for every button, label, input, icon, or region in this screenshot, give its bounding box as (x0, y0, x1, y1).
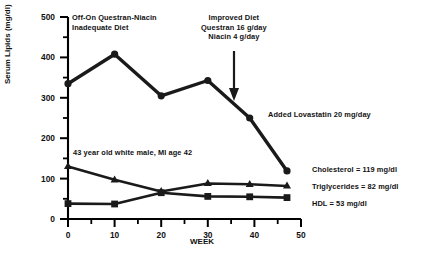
x-tick-20: 20 (149, 230, 173, 240)
y-tick-0: 0 (22, 214, 55, 224)
y-tick-400: 400 (22, 52, 55, 62)
y-tick-300: 300 (22, 93, 55, 103)
annotation-questran-line1: Off-On Questran-Niacin (72, 13, 157, 22)
x-tick-0: 0 (56, 230, 80, 240)
annotation-lovastatin: Added Lovastatin 20 mg/day (268, 110, 371, 120)
y-tick-500: 500 (22, 12, 55, 22)
label-cholesterol-value: Cholesterol = 119 mg/dl (312, 165, 397, 175)
annotation-improved-line1: Improved Diet (209, 13, 260, 22)
label-hdl-value: HDL = 53 mg/dl (312, 199, 367, 209)
x-tick-40: 40 (242, 230, 266, 240)
y-axis-title: Serum Lipids (mg/dl) (3, 4, 12, 84)
annotation-improved-diet: Improved DietQuestran 16 g/dayNiacin 4 g… (201, 13, 267, 42)
x-tick-10: 10 (103, 230, 127, 240)
x-tick-50: 50 (289, 230, 313, 240)
series-triglycerides (64, 162, 291, 194)
annotation-patient-info: 43 year old white male, MI age 42 (73, 148, 192, 158)
series-hdl (65, 189, 291, 207)
annotation-questran-line2: Inadequate Diet (72, 23, 129, 32)
y-tick-200: 200 (22, 133, 55, 143)
improved-diet-arrow (229, 51, 239, 101)
annotation-improved-line3: Niacin 4 g/day (208, 32, 259, 41)
y-tick-100: 100 (22, 174, 55, 184)
chart-container: Serum Lipids (mg/dl) WEEK 500 400 300 20… (0, 0, 446, 253)
x-tick-30: 30 (196, 230, 220, 240)
label-triglycerides-value: Triglycerides = 82 mg/dl (312, 182, 398, 192)
annotation-questran-niacin: Off-On Questran-NiacinInadequate Diet (72, 13, 157, 32)
annotation-improved-line2: Questran 16 g/day (201, 23, 267, 32)
